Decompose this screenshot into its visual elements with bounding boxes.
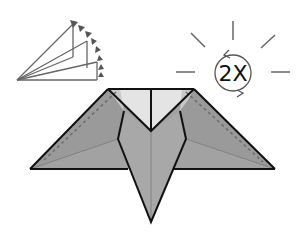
origami-diagram: 2X xyxy=(0,0,304,235)
origami-model xyxy=(0,0,304,235)
